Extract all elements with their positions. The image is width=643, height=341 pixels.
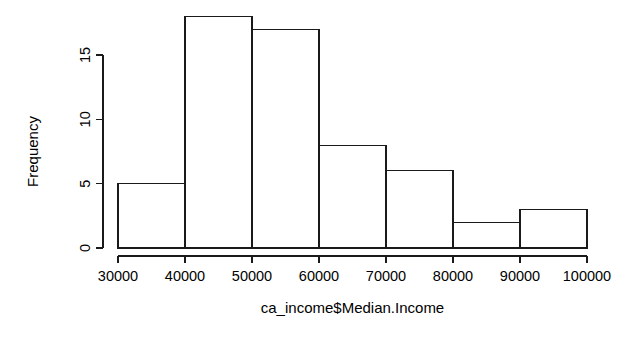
histogram-bar-70000-80000	[386, 171, 453, 248]
y-tick-label-15: 15	[77, 47, 93, 63]
y-tick-label-10: 10	[77, 111, 93, 127]
histogram-bar-80000-90000	[453, 222, 520, 248]
y-tick-label-0: 0	[77, 244, 93, 252]
x-tick-label-50000: 50000	[232, 268, 272, 284]
x-tick-label-70000: 70000	[366, 268, 406, 284]
y-tick-label-5: 5	[77, 180, 93, 188]
x-tick-label-80000: 80000	[433, 268, 473, 284]
x-tick-label-40000: 40000	[165, 268, 205, 284]
histogram-bar-50000-60000	[252, 29, 319, 248]
histogram-bar-30000-40000	[118, 184, 185, 248]
histogram-plot: 0510153000040000500006000070000800009000…	[0, 0, 643, 341]
histogram-bar-90000-100000	[520, 209, 587, 248]
x-tick-label-30000: 30000	[98, 268, 138, 284]
histogram-bar-60000-70000	[319, 145, 386, 248]
x-tick-label-60000: 60000	[299, 268, 339, 284]
y-axis-title: Frequency	[24, 116, 41, 187]
x-tick-label-100000: 100000	[563, 268, 611, 284]
histogram-canvas: 0510153000040000500006000070000800009000…	[0, 0, 643, 341]
x-axis-title: ca_income$Median.Income	[261, 299, 444, 316]
histogram-bar-40000-50000	[185, 16, 252, 248]
x-tick-label-90000: 90000	[500, 268, 540, 284]
